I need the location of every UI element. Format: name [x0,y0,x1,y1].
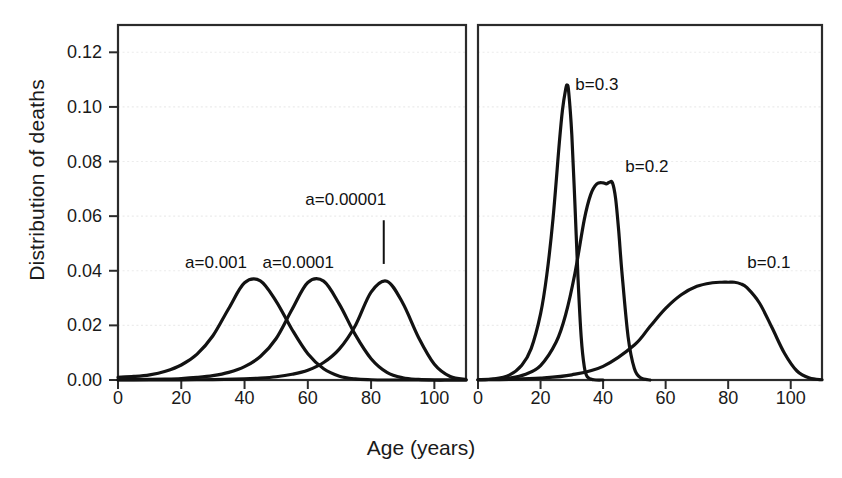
y-tick-label: 0.00 [40,370,102,391]
x-tick-label: 60 [298,388,318,409]
y-tick-label: 0.04 [40,260,102,281]
y-tick-label: 0.10 [40,96,102,117]
curve-label-b-0-3: b=0.3 [575,75,618,95]
x-tick-label: 0 [473,388,483,409]
x-tick-label: 40 [235,388,255,409]
x-tick-label: 0 [113,388,123,409]
y-tick-label: 0.08 [40,151,102,172]
x-tick-label: 80 [718,388,738,409]
x-tick-label: 100 [776,388,806,409]
x-tick-label: 60 [656,388,676,409]
curve-b-0-1 [478,282,822,380]
figure-root: Distribution of deaths Age (years) 0.000… [0,0,842,478]
x-tick-label: 100 [419,388,449,409]
curve-label-a-0-0001: a=0.0001 [263,253,334,273]
curve-b-0-2 [478,181,650,380]
x-tick-label: 20 [531,388,551,409]
y-tick-label: 0.06 [40,206,102,227]
curve-b-0-3 [478,85,603,380]
curve-label-b-0-2: b=0.2 [625,157,668,177]
curve-label-a-0-001: a=0.001 [185,253,247,273]
y-axis-title: Distribution of deaths [25,15,49,345]
x-axis-title: Age (years) [0,436,842,460]
curve-label-b-0-1: b=0.1 [747,253,790,273]
x-tick-label: 80 [361,388,381,409]
x-tick-label: 40 [593,388,613,409]
curve-label-a-0-00001: a=0.00001 [305,190,386,210]
x-tick-label: 20 [171,388,191,409]
y-tick-label: 0.12 [40,42,102,63]
y-tick-label: 0.02 [40,315,102,336]
